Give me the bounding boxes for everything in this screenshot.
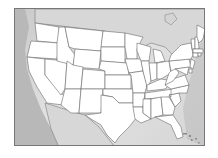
state-ks[interactable] xyxy=(105,75,131,89)
state-ct[interactable] xyxy=(193,53,198,57)
state-or[interactable] xyxy=(27,41,59,59)
state-ma[interactable] xyxy=(193,49,203,53)
state-mt[interactable] xyxy=(65,27,103,51)
state-wa[interactable] xyxy=(35,23,59,43)
state-mi[interactable] xyxy=(153,49,165,63)
state-wi[interactable] xyxy=(137,43,151,61)
state-nm[interactable] xyxy=(79,89,103,113)
us-map xyxy=(15,9,205,146)
state-nd[interactable] xyxy=(101,31,125,47)
map-frame xyxy=(14,8,205,146)
state-fl[interactable] xyxy=(155,115,183,139)
state-de[interactable] xyxy=(189,69,192,73)
state-sd[interactable] xyxy=(101,47,125,63)
state-vt[interactable] xyxy=(191,39,195,49)
state-co[interactable] xyxy=(81,69,105,89)
state-ri[interactable] xyxy=(198,53,201,56)
